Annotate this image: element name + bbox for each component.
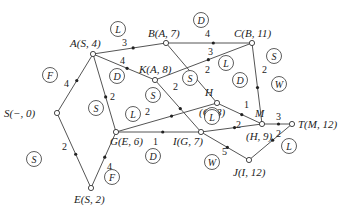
region-label: L [219,56,234,71]
edge-weight: 4 [120,55,125,66]
edge-weight: 2 [236,119,241,130]
edge-S-A [57,54,93,113]
edge-weight: 1 [244,99,249,110]
node-J [246,157,251,162]
arrow-marker [126,67,129,70]
region-label: S [89,101,104,116]
node-label-C: C(B, 11) [234,27,271,40]
arrow-marker [277,122,280,125]
network-diagram: 423424232214122532 S(−, 0)A(S, 4)B(A, 7)… [0,0,361,217]
svg-text:L: L [222,58,229,69]
arrow-marker [75,79,78,82]
edge-weight: 4 [205,28,210,39]
node-G [113,129,118,134]
region-label: L [282,139,297,154]
svg-text:S: S [151,90,156,101]
arrow-marker [179,107,182,110]
svg-text:F: F [108,172,116,183]
edge-weight: 4 [64,78,69,89]
region-label: W [205,155,220,170]
edge-weight: 2 [62,141,67,152]
node-label-S: S(−, 0) [4,107,36,120]
svg-text:D: D [112,71,121,82]
svg-text:D: D [196,15,205,26]
edge-weight: 2 [205,64,210,75]
arrow-marker [207,58,210,61]
node-label-E: E(S, 2) [73,193,105,206]
node-label-H: H [204,86,214,98]
arrow-marker [103,156,106,159]
node-H [214,100,219,105]
svg-text:L: L [114,24,121,35]
node-K [152,77,157,82]
node-S [54,110,59,115]
region-label: D [194,13,209,28]
node-label-M: M [254,107,265,119]
node-I [198,129,203,134]
svg-text:S: S [272,51,277,62]
arrow-marker [212,41,215,44]
node-C [249,40,254,45]
arrow-marker [132,46,135,49]
region-label: S [267,49,282,64]
node-label-I: I(G, 7) [172,135,203,148]
region-label: S [183,71,198,86]
node-label-G: G(E, 6) [110,135,143,148]
edge-weight: 3 [122,37,127,48]
arrow-marker [240,113,243,116]
arrow-marker [170,114,173,117]
svg-text:F: F [46,70,54,81]
edge-K-I [155,80,201,132]
arrow-marker [161,130,164,133]
svg-text:L: L [208,112,215,123]
edge-weight: 2 [173,81,178,92]
region-label: L [205,110,220,125]
node-E [88,185,93,190]
node-T [289,121,294,126]
edge-weight: 2 [110,91,115,102]
region-label: L [111,22,126,37]
region-label: S [146,88,161,103]
node-label-B: B(A, 7) [148,27,180,40]
node-M [259,121,264,126]
node-label-M2: (H, 9) [246,130,273,143]
svg-text:S: S [32,154,37,165]
node-label-K: K(A, 8) [138,63,172,76]
node-B [163,40,168,45]
edge-weight: 2 [276,128,281,139]
svg-text:L: L [285,141,292,152]
edge-weight: 2 [145,106,150,117]
edge-weight: 2 [262,64,267,75]
edge-weight: 3 [276,111,281,122]
node-label-J: J(I, 12) [233,166,266,179]
node-label-A: A(S, 4) [69,37,101,50]
arrow-marker [74,153,77,156]
region-label: W [272,77,287,92]
edge-A-B [93,43,166,54]
svg-text:S: S [94,103,99,114]
node-label-T: T(M, 12) [298,118,337,131]
region-label: L [126,107,141,122]
arrow-marker [104,95,107,98]
region-label: F [43,68,58,83]
svg-text:D: D [235,75,244,86]
arrow-marker [256,86,259,89]
svg-text:S: S [188,73,193,84]
region-label: D [110,69,125,84]
region-label: D [233,73,248,88]
svg-text:D: D [148,151,157,162]
edge-weight: 3 [208,46,213,57]
region-label: S [27,152,42,167]
svg-text:L: L [129,109,136,120]
edge-weight: 5 [222,146,227,157]
edge-weight: 1 [153,136,158,147]
node-A [90,51,95,56]
region-label: F [105,170,120,185]
region-label: D [146,149,161,164]
